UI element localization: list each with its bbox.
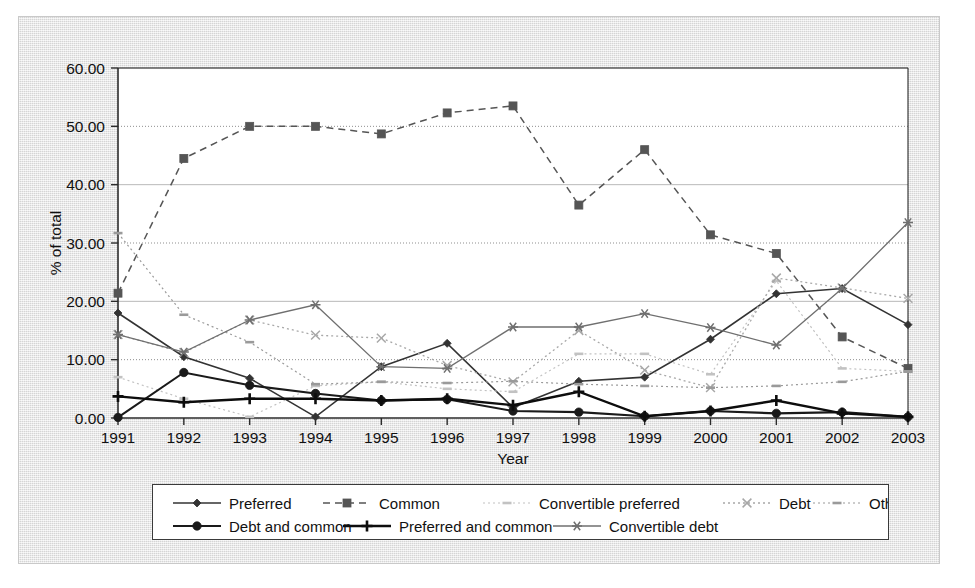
data-point	[377, 130, 385, 138]
x-axis-title: Year	[497, 450, 528, 467]
legend-item-preferred-and-common[interactable]: Preferred and common	[343, 518, 552, 535]
legend-marker-icon	[193, 522, 201, 530]
x-tick-label: 1992	[167, 429, 201, 446]
data-point	[180, 154, 188, 162]
y-axis-title: % of total	[47, 211, 64, 276]
legend-item-other[interactable]: Other	[813, 495, 888, 512]
legend-label: Preferred	[229, 495, 292, 512]
legend-label: Convertible debt	[609, 518, 719, 535]
data-point	[312, 122, 320, 130]
legend-marker-icon	[193, 499, 201, 507]
legend-marker-icon	[362, 521, 373, 532]
x-axis-tick-labels: 1991199219931994199519961997199819992000…	[101, 429, 925, 446]
legend-item-debt-and-common[interactable]: Debt and common	[173, 518, 352, 535]
x-tick-label: 2001	[759, 429, 793, 446]
x-tick-label: 1994	[298, 429, 333, 446]
legend-item-convertible-preferred[interactable]: Convertible preferred	[483, 495, 680, 512]
x-tick-label: 1996	[430, 429, 464, 446]
x-tick-label: 1997	[496, 429, 530, 446]
legend-item-preferred[interactable]: Preferred	[173, 495, 292, 512]
x-tick-label: 1993	[232, 429, 266, 446]
data-point	[114, 289, 122, 297]
x-tick-label: 1995	[364, 429, 398, 446]
legend-label: Common	[379, 495, 440, 512]
x-tick-label: 2000	[693, 429, 728, 446]
y-tick-label: 10.00	[66, 351, 105, 368]
plot-area-background	[118, 68, 908, 418]
data-point	[509, 102, 517, 110]
legend-item-common[interactable]: Common	[323, 495, 440, 512]
x-axis-ticks	[118, 418, 908, 425]
y-tick-label: 60.00	[66, 60, 105, 77]
chart-figure: 0.0010.0020.0030.0040.0050.0060.00 19911…	[0, 0, 975, 588]
data-point	[180, 368, 188, 376]
data-point	[575, 201, 583, 209]
data-point	[838, 333, 846, 341]
data-point	[245, 381, 253, 389]
y-tick-label: 20.00	[66, 293, 105, 310]
x-tick-label: 1999	[627, 429, 661, 446]
y-tick-label: 40.00	[66, 176, 105, 193]
data-point	[707, 231, 715, 239]
legend-item-convertible-debt[interactable]: Convertible debt	[553, 518, 719, 535]
legend-marker-icon	[343, 499, 351, 507]
legend-label: Convertible preferred	[539, 495, 680, 512]
data-point	[772, 250, 780, 258]
y-tick-label: 30.00	[66, 235, 105, 252]
x-tick-label: 1998	[562, 429, 596, 446]
data-point	[641, 146, 649, 154]
legend-label: Debt	[779, 495, 812, 512]
y-tick-label: 0.00	[75, 410, 106, 427]
data-point	[114, 413, 122, 421]
legend-label: Debt and common	[229, 518, 352, 535]
y-tick-label: 50.00	[66, 118, 105, 135]
legend-svg: PreferredCommonConvertible preferredDebt…	[153, 485, 888, 539]
data-point	[772, 409, 780, 417]
legend-label: Other	[869, 495, 888, 512]
data-point	[575, 408, 583, 416]
x-tick-label: 2003	[891, 429, 925, 446]
x-tick-label: 1991	[101, 429, 135, 446]
x-tick-label: 2002	[825, 429, 859, 446]
y-axis-tick-labels: 0.0010.0020.0030.0040.0050.0060.00	[66, 60, 105, 427]
y-axis-ticks	[111, 68, 118, 418]
chart-legend: PreferredCommonConvertible preferredDebt…	[152, 484, 889, 540]
data-point	[246, 122, 254, 130]
data-point	[443, 109, 451, 117]
legend-item-debt[interactable]: Debt	[723, 495, 812, 512]
legend-label: Preferred and common	[399, 518, 552, 535]
legend-marker-icon	[572, 522, 582, 530]
